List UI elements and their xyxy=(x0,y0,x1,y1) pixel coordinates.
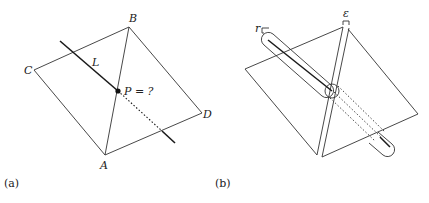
epsilon-bracket xyxy=(343,21,349,25)
capsule-front xyxy=(261,32,333,97)
capsule-hidden-bottom xyxy=(330,98,375,141)
vertex-label-d: D xyxy=(202,108,212,121)
line-l-front xyxy=(268,40,332,91)
line-label-l: L xyxy=(91,56,99,69)
capsule-hidden-top xyxy=(338,86,385,132)
slab-edge-right xyxy=(322,28,349,157)
vertex-label-c: C xyxy=(24,64,33,77)
capsule-back xyxy=(369,132,395,157)
line-l-back xyxy=(162,131,175,143)
caption-b: (b) xyxy=(215,177,231,190)
intersection-point-p xyxy=(115,88,120,93)
caption-a: (a) xyxy=(4,177,19,190)
vertex-label-b: B xyxy=(128,12,137,25)
figure-canvas: B C D A L P = ? (a) r ε (b) xyxy=(0,0,429,203)
panel-a: B C D A L P = ? (a) xyxy=(4,12,212,190)
point-label-p: P = ? xyxy=(123,85,154,98)
right-face xyxy=(322,29,418,157)
radius-label-r: r xyxy=(255,22,261,35)
capsule-hidden-mid xyxy=(334,92,382,138)
vertex-label-a: A xyxy=(99,159,108,172)
left-face xyxy=(245,27,343,155)
line-l-front xyxy=(60,41,118,91)
triangle-cba xyxy=(34,27,129,155)
panel-b: r ε (b) xyxy=(215,7,418,190)
epsilon-label: ε xyxy=(343,7,349,20)
